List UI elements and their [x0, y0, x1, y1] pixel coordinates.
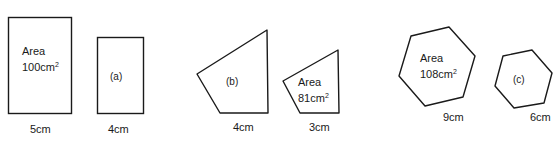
area-word: Area: [298, 76, 329, 89]
large-quadrilateral-b: [197, 30, 268, 113]
rectangle-a-dimension: 4cm: [108, 123, 129, 135]
small-quadrilateral-dimension: 3cm: [309, 121, 330, 133]
small-hexagon-c-dimension: 6cm: [530, 111, 551, 123]
area-value: 100cm2: [22, 58, 59, 74]
area-value: 81cm2: [298, 89, 329, 105]
small-hexagon-c-label: (c): [513, 73, 525, 86]
large-rectangle-area-label: Area 100cm2: [22, 45, 59, 74]
area-word: Area: [420, 52, 457, 65]
small-quadrilateral-area-label: Area 81cm2: [298, 76, 329, 105]
area-value: 108cm2: [420, 65, 457, 81]
large-hexagon-dimension: 9cm: [443, 111, 464, 123]
large-rectangle-dimension: 5cm: [30, 123, 51, 135]
quadrilateral-b-dimension: 4cm: [233, 121, 254, 133]
quadrilateral-b-label: (b): [226, 75, 238, 88]
similar-shapes-diagram: [0, 0, 557, 141]
rectangle-a-label: (a): [110, 70, 122, 83]
large-hexagon-area-label: Area 108cm2: [420, 52, 457, 81]
area-word: Area: [22, 45, 59, 58]
